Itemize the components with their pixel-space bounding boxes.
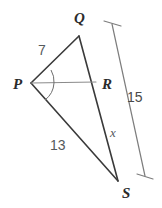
label-RS-length: x — [109, 125, 116, 140]
angle-RPS-arc — [45, 83, 54, 100]
vertex-label-P: P — [13, 76, 23, 92]
label-PS-length: 13 — [50, 137, 66, 153]
label-QS-measure: 15 — [127, 89, 143, 105]
vertex-label-Q: Q — [74, 10, 85, 26]
segment-PR — [31, 82, 96, 83]
angle-QPR-arc — [51, 70, 54, 83]
label-PQ-length: 7 — [38, 42, 46, 58]
vertex-label-S: S — [122, 185, 130, 201]
vertex-label-R: R — [101, 76, 112, 92]
geometry-figure: Q P R S 7 13 x 15 — [0, 0, 162, 208]
geometry-canvas: Q P R S 7 13 x 15 — [0, 0, 162, 208]
